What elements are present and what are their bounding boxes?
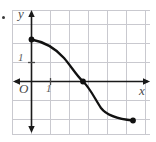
graph-figure: y x O 1 1	[0, 0, 156, 142]
x-axis-tick-label-1: 1	[46, 83, 52, 94]
origin-label: O	[19, 82, 28, 95]
x-axis-label: x	[139, 84, 145, 97]
curve-end-point	[130, 118, 136, 124]
plot-background	[13, 10, 150, 135]
curve-start-point	[29, 37, 35, 43]
coordinate-plane	[0, 0, 156, 142]
y-axis-tick-label-1: 1	[18, 52, 24, 63]
curve-inflection-point	[80, 79, 86, 85]
y-axis-label: y	[18, 7, 24, 20]
